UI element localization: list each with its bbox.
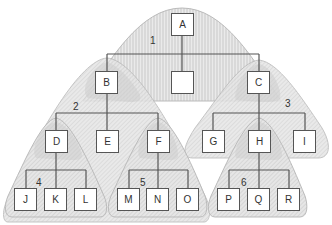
node-q: Q	[247, 188, 270, 211]
node-r: R	[277, 188, 300, 211]
node-n: N	[146, 188, 169, 211]
node-g: G	[202, 130, 225, 153]
node-h: H	[248, 130, 271, 153]
node-f: F	[147, 130, 170, 153]
node-b: B	[95, 71, 118, 94]
region-label-2: 2	[73, 101, 79, 112]
tree-diagram: ABCDEFGHIJKLMNOPQR 123456	[0, 0, 332, 225]
node-a: A	[171, 13, 194, 36]
region-label-6: 6	[241, 177, 247, 188]
node-j: J	[14, 188, 37, 211]
node-l: L	[74, 188, 97, 211]
node-p: P	[217, 188, 240, 211]
node-i: I	[293, 130, 316, 153]
region-label-5: 5	[140, 177, 146, 188]
node-m: M	[117, 188, 140, 211]
node-o: O	[176, 188, 199, 211]
region-label-4: 4	[36, 177, 42, 188]
region-label-1: 1	[150, 35, 156, 46]
region-label-3: 3	[285, 98, 291, 109]
node-k: K	[44, 188, 67, 211]
node-blank	[171, 71, 194, 94]
node-d: D	[45, 130, 68, 153]
node-c: C	[247, 71, 270, 94]
node-e: E	[96, 130, 119, 153]
